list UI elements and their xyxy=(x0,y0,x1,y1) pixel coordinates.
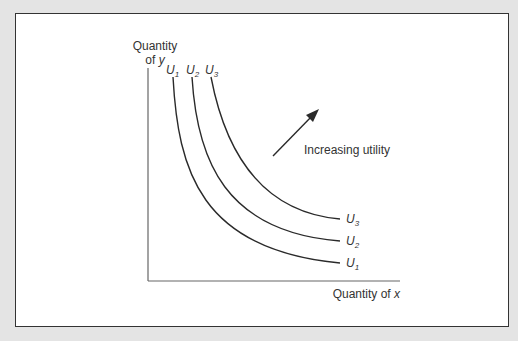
y-axis-label-line2: of y xyxy=(145,53,165,67)
arrow-label: Increasing utility xyxy=(304,143,390,157)
y-axis-label-var: y xyxy=(158,53,166,67)
curve-u3-right-label: U3 xyxy=(346,212,360,228)
y-axis-label-line1: Quantity xyxy=(133,39,178,53)
curve-u3-top-label: U3 xyxy=(205,63,219,79)
curve-u2-top-label: U2 xyxy=(186,63,200,79)
curve-u1-right-label: U1 xyxy=(346,256,359,272)
curve-u1 xyxy=(173,77,340,263)
curve-u2-right-label: U2 xyxy=(346,234,360,250)
indifference-diagram: Quantity of y Quantity of x U1 U2 U3 U3 … xyxy=(0,0,518,341)
x-axis-label: Quantity of x xyxy=(333,287,401,301)
x-axis-label-var: x xyxy=(393,287,401,301)
y-axis-label-prefix: of xyxy=(145,53,158,67)
curve-u2 xyxy=(192,77,340,241)
x-axis-label-prefix: Quantity of xyxy=(333,287,394,301)
curve-u1-top-label: U1 xyxy=(166,63,179,79)
